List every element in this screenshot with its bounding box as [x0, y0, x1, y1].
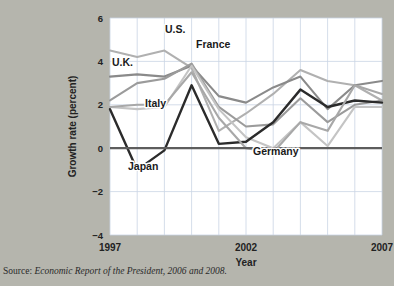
series-label-japan: Japan [128, 160, 158, 172]
y-axis-title: Growth rate (percent) [67, 76, 78, 178]
line-chart: −4−20246199720022007YearGrowth rate (per… [0, 0, 394, 286]
y-tick-label: 2 [98, 99, 103, 110]
y-tick-label: 6 [98, 13, 103, 24]
series-label-us: U.S. [165, 23, 186, 35]
y-tick-label: −2 [92, 186, 103, 197]
x-axis-title: Year [235, 257, 256, 268]
series-label-uk: U.K. [112, 56, 133, 68]
y-tick-label: −4 [92, 230, 104, 241]
x-tick-label: 2007 [371, 242, 394, 253]
series-label-france: France [196, 38, 231, 50]
figure-container: −4−20246199720022007YearGrowth rate (per… [0, 0, 394, 286]
y-tick-label: 4 [98, 56, 104, 67]
source-citation: Economic Report of the President, 2006 a… [34, 266, 227, 276]
y-tick-label: 0 [98, 143, 103, 154]
x-tick-label: 2002 [235, 242, 258, 253]
source-prefix: Source: [3, 266, 34, 276]
series-label-germany: Germany [253, 145, 299, 157]
series-label-italy: Italy [145, 97, 166, 109]
x-tick-label: 1997 [99, 242, 122, 253]
source-note: Source: Economic Report of the President… [3, 266, 227, 276]
